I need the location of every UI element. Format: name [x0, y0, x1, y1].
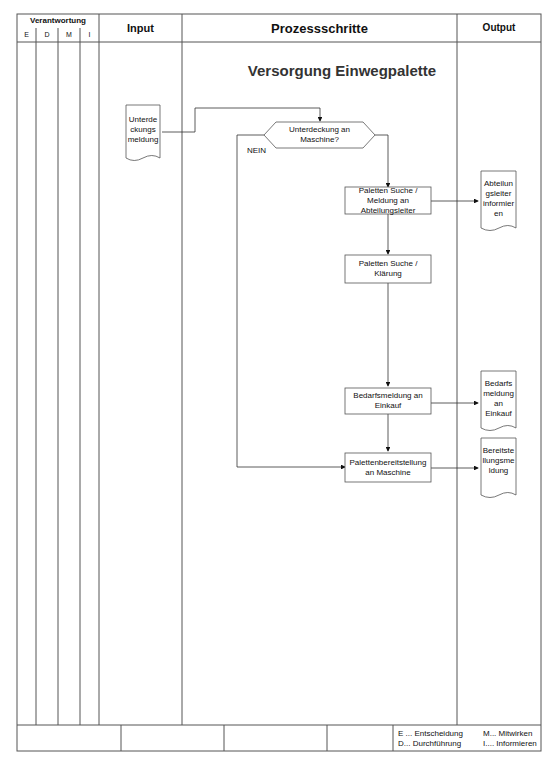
role-m: M	[58, 31, 80, 38]
output-document-3: Bereitste llungsme ldung	[481, 441, 516, 481]
swimlane-grid	[0, 0, 557, 771]
decision-no-label: NEIN	[247, 146, 266, 155]
role-e: E	[17, 31, 36, 38]
header-input: Input	[99, 22, 182, 34]
step-3: Bedarfsmeldung an Einkauf	[345, 388, 431, 414]
header-output: Output	[457, 22, 541, 33]
decision: Unterdeckung an Maschine?	[276, 122, 363, 148]
header-responsibility: Verantwortung	[17, 16, 99, 25]
legend-i: I.... Informieren	[483, 739, 537, 749]
legend-m: M... Mitwirken	[483, 729, 532, 739]
input-document: Unterde ckungs meldung	[126, 110, 160, 150]
legend-d: D... Durchführung	[398, 739, 461, 749]
step-1: Paletten Suche / Meldung an Abteilungsle…	[345, 187, 431, 214]
role-i: I	[80, 31, 99, 38]
output-document-2: Bedarfs meldung an Einkauf	[481, 375, 516, 423]
step-2: Paletten Suche / Klärung	[345, 255, 431, 283]
legend-e: E ... Entscheidung	[398, 729, 463, 739]
role-d: D	[36, 31, 58, 38]
header-process: Prozessschritte	[182, 21, 457, 36]
output-document-1: Abteilun gsleiter informier en	[481, 175, 516, 223]
diagram-title: Versorgung Einwegpalette	[182, 62, 502, 79]
connector-yes	[375, 135, 388, 187]
step-4: Palettenbereitstellung an Maschine	[345, 453, 431, 482]
connector-no	[237, 135, 345, 467]
